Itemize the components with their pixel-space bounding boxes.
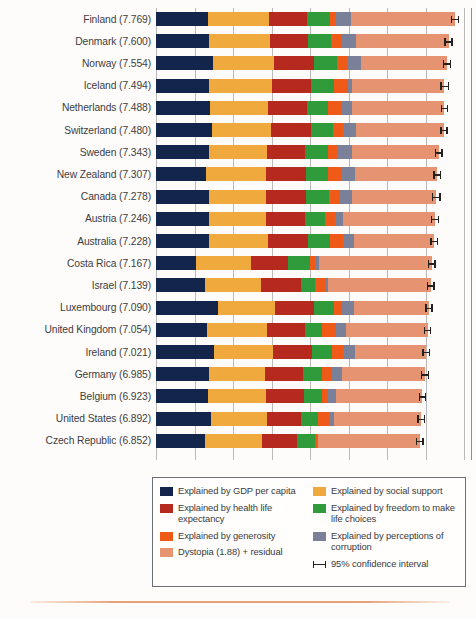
stacked-bar bbox=[156, 234, 434, 248]
legend-item: Explained by GDP per capita bbox=[160, 485, 306, 496]
confidence-interval bbox=[425, 308, 433, 309]
bar-segment-health bbox=[274, 56, 314, 70]
confidence-interval bbox=[433, 174, 441, 175]
chart-row: Norway (7.554) bbox=[0, 54, 476, 72]
legend-item: 95% confidence interval bbox=[313, 558, 459, 569]
confidence-interval bbox=[424, 330, 431, 331]
chart-row: Ireland (7.021) bbox=[0, 343, 476, 361]
stacked-bar bbox=[156, 367, 425, 381]
stacked-bar bbox=[156, 412, 421, 426]
bar-wrap bbox=[156, 343, 470, 361]
chart-row: Germany (6.985) bbox=[0, 365, 476, 383]
bar-segment-freedom bbox=[311, 123, 333, 137]
bar-segment-social bbox=[209, 190, 267, 204]
bar-segment-health bbox=[262, 434, 297, 448]
bar-segment-generosity bbox=[328, 101, 340, 115]
bar-segment-freedom bbox=[305, 323, 322, 337]
bar-segment-generosity bbox=[334, 79, 348, 93]
stacked-bar bbox=[156, 56, 447, 70]
confidence-interval-icon bbox=[313, 560, 326, 569]
country-label: Netherlands (7.488) bbox=[0, 102, 156, 113]
bar-segment-social bbox=[209, 145, 266, 159]
bar-segment-freedom bbox=[301, 412, 318, 426]
bar-segment-social bbox=[209, 234, 269, 248]
country-label: Austria (7.246) bbox=[0, 213, 156, 224]
bar-segment-freedom bbox=[307, 101, 328, 115]
country-label: Finland (7.769) bbox=[0, 14, 156, 25]
stacked-bar bbox=[156, 79, 444, 93]
bar-wrap bbox=[156, 232, 470, 250]
legend-label: Dystopia (1.88) + residual bbox=[178, 546, 283, 557]
bar-wrap bbox=[156, 299, 470, 317]
stacked-bar bbox=[156, 256, 432, 270]
bar-segment-freedom bbox=[297, 434, 315, 448]
bar-segment-gdp bbox=[156, 412, 211, 426]
bar-segment-gdp bbox=[156, 234, 209, 248]
bar-segment-gdp bbox=[156, 145, 209, 159]
legend-label: Explained by freedom to make life choice… bbox=[331, 502, 459, 524]
country-label: Sweden (7.343) bbox=[0, 147, 156, 158]
country-label: Belgium (6.923) bbox=[0, 391, 156, 402]
stacked-bar bbox=[156, 145, 439, 159]
bar-segment-social bbox=[211, 412, 267, 426]
bar-segment-gdp bbox=[156, 34, 209, 48]
bar-segment-social bbox=[212, 123, 271, 137]
chart-row: Denmark (7.600) bbox=[0, 32, 476, 50]
chart-row: New Zealand (7.307) bbox=[0, 165, 476, 183]
happiness-ranking-chart: Finland (7.769)Denmark (7.600)Norway (7.… bbox=[0, 0, 476, 466]
bar-segment-health bbox=[275, 301, 314, 315]
legend-swatch bbox=[313, 504, 326, 513]
bar-segment-health bbox=[261, 278, 301, 292]
chart-row: Costa Rica (7.167) bbox=[0, 254, 476, 272]
confidence-interval bbox=[440, 130, 448, 131]
stacked-bar bbox=[156, 323, 428, 337]
bar-segment-dystopia bbox=[356, 34, 448, 48]
chart-row: Finland (7.769) bbox=[0, 10, 476, 28]
bar-segment-corruption bbox=[341, 101, 352, 115]
bar-segment-generosity bbox=[322, 323, 335, 337]
confidence-interval bbox=[444, 41, 452, 42]
bar-segment-freedom bbox=[308, 234, 329, 248]
legend-swatch bbox=[313, 487, 326, 496]
bar-segment-dystopia bbox=[352, 101, 444, 115]
bar-segment-health bbox=[270, 34, 308, 48]
bar-segment-health bbox=[273, 345, 311, 359]
bar-segment-generosity bbox=[331, 34, 341, 48]
bar-segment-dystopia bbox=[355, 345, 426, 359]
chart-row: Canada (7.278) bbox=[0, 188, 476, 206]
legend-label: Explained by social support bbox=[331, 485, 442, 496]
bar-wrap bbox=[156, 32, 470, 50]
bar-segment-dystopia bbox=[336, 389, 422, 403]
legend-item: Dystopia (1.88) + residual bbox=[160, 546, 306, 557]
bar-segment-dystopia bbox=[354, 234, 435, 248]
bar-segment-generosity bbox=[325, 212, 334, 226]
bar-wrap bbox=[156, 387, 470, 405]
bar-segment-freedom bbox=[308, 34, 331, 48]
stacked-bar bbox=[156, 101, 444, 115]
bar-segment-corruption bbox=[347, 56, 360, 70]
bar-segment-freedom bbox=[312, 345, 332, 359]
stacked-bar bbox=[156, 389, 422, 403]
bar-segment-dystopia bbox=[355, 167, 437, 181]
bar-segment-generosity bbox=[318, 412, 329, 426]
bar-segment-generosity bbox=[328, 167, 341, 181]
bar-segment-gdp bbox=[156, 123, 212, 137]
bar-segment-corruption bbox=[335, 212, 344, 226]
chart-row: Switzerland (7.480) bbox=[0, 121, 476, 139]
chart-row: Belgium (6.923) bbox=[0, 387, 476, 405]
bar-wrap bbox=[156, 432, 470, 450]
bar-segment-dystopia bbox=[352, 190, 436, 204]
legend-item: Explained by health life expectancy bbox=[160, 502, 306, 524]
chart-row: Austria (7.246) bbox=[0, 210, 476, 228]
legend-swatch bbox=[313, 532, 326, 541]
chart-row: Sweden (7.343) bbox=[0, 143, 476, 161]
confidence-interval bbox=[451, 19, 459, 20]
bar-wrap bbox=[156, 77, 470, 95]
bar-segment-freedom bbox=[306, 167, 329, 181]
stacked-bar bbox=[156, 212, 435, 226]
chart-row: Israel (7.139) bbox=[0, 276, 476, 294]
bar-segment-gdp bbox=[156, 190, 209, 204]
bar-wrap bbox=[156, 10, 470, 28]
country-label: Iceland (7.494) bbox=[0, 80, 156, 91]
confidence-interval bbox=[443, 63, 451, 64]
